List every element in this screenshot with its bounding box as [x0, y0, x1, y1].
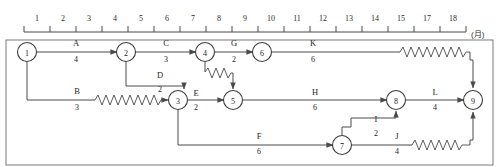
- activity-I-duration: 2: [374, 129, 378, 138]
- edge-B: [27, 62, 95, 100]
- diagram-frame: [6, 40, 493, 165]
- activity-D-duration: 2: [158, 85, 162, 94]
- node-6-label: 6: [260, 49, 264, 58]
- activity-K-duration: 6: [311, 55, 315, 64]
- node-9[interactable]: 9: [464, 91, 483, 110]
- node-9-label: 9: [471, 97, 475, 106]
- activity-J-name: J: [395, 131, 399, 141]
- edge-K-drop: [470, 52, 473, 88]
- node-8-label: 8: [394, 97, 398, 106]
- ruler-tick-label-5: 5: [139, 14, 143, 23]
- activity-C-name: C: [163, 38, 169, 48]
- event-nodes: 1 2 3 4 5 6 7: [18, 43, 483, 155]
- node-2[interactable]: 2: [117, 43, 136, 62]
- node-7-label: 7: [340, 142, 344, 151]
- node-4[interactable]: 4: [196, 43, 215, 62]
- activity-G-name: G: [231, 38, 237, 48]
- slack-4-5: [205, 68, 233, 78]
- ruler-tick-label-11: 11: [293, 14, 301, 23]
- activity-J-duration: 4: [395, 147, 399, 156]
- activity-F-duration: 6: [257, 147, 261, 156]
- ruler-tick-label-17: 17: [423, 14, 431, 23]
- node-3[interactable]: 3: [169, 91, 188, 110]
- activity-F-name: F: [257, 131, 262, 141]
- ruler-tick-label-13: 13: [345, 14, 353, 23]
- ruler-tick-label-3: 3: [87, 14, 91, 23]
- ruler-tick-label-15: 15: [397, 14, 405, 23]
- ruler-ticks: [50, 26, 440, 32]
- ruler-tick-label-1: 1: [35, 14, 39, 23]
- node-2-label: 2: [124, 49, 128, 58]
- slack-K: [400, 47, 470, 57]
- slack-B: [95, 95, 167, 105]
- activity-edges: [27, 47, 473, 150]
- edge-I: [342, 111, 396, 135]
- node-1[interactable]: 1: [18, 43, 37, 62]
- ruler-tick-label-8: 8: [217, 14, 221, 23]
- ruler-unit-label: (月): [471, 30, 485, 39]
- node-5[interactable]: 5: [224, 91, 243, 110]
- activity-A-name: A: [73, 38, 80, 48]
- activity-C-duration: 3: [164, 55, 168, 64]
- edge-J-rise: [470, 112, 473, 145]
- node-4-label: 4: [203, 49, 207, 58]
- ruler-tick-label-18: 18: [449, 14, 457, 23]
- node-7[interactable]: 7: [333, 136, 352, 155]
- network-diagram-canvas: 1 2 3 4 5 6 7 8 9 10 11 12 13 14 15 17 1…: [0, 0, 499, 167]
- activity-G-duration: 2: [232, 55, 236, 64]
- activity-B-name: B: [74, 86, 80, 96]
- ruler-tick-label-4: 4: [113, 14, 117, 23]
- activity-K-name: K: [310, 38, 317, 48]
- ruler-tick-label-2: 2: [61, 14, 65, 23]
- activity-L-duration: 4: [433, 103, 437, 112]
- activity-E-duration: 2: [194, 103, 198, 112]
- edge-F: [178, 110, 333, 145]
- activity-E-name: E: [193, 88, 198, 98]
- activity-L-name: L: [432, 87, 437, 97]
- activity-A-duration: 4: [74, 55, 78, 64]
- node-6[interactable]: 6: [253, 43, 272, 62]
- edge-D: [126, 62, 184, 89]
- node-1-label: 1: [25, 49, 29, 58]
- ruler-tick-label-14: 14: [371, 14, 379, 23]
- activity-H-name: H: [312, 87, 318, 97]
- activity-D-name: D: [157, 70, 163, 80]
- ruler-tick-label-10: 10: [267, 14, 275, 23]
- ruler-tick-label-12: 12: [319, 14, 327, 23]
- node-5-label: 5: [231, 97, 235, 106]
- activity-B-duration: 3: [75, 103, 79, 112]
- slack-J: [412, 140, 470, 150]
- ruler-tick-label-7: 7: [191, 14, 195, 23]
- node-8[interactable]: 8: [387, 91, 406, 110]
- activity-H-duration: 6: [313, 103, 317, 112]
- ruler-tick-label-6: 6: [165, 14, 169, 23]
- ruler-tick-label-9: 9: [243, 14, 247, 23]
- node-3-label: 3: [176, 97, 180, 106]
- network-diagram-svg: 1 2 3 4 5 6 7 8 9 10 11 12 13 14 15 17 1…: [0, 0, 499, 167]
- time-ruler: 1 2 3 4 5 6 7 8 9 10 11 12 13 14 15 17 1…: [24, 14, 485, 39]
- activity-I-name: I: [375, 114, 378, 124]
